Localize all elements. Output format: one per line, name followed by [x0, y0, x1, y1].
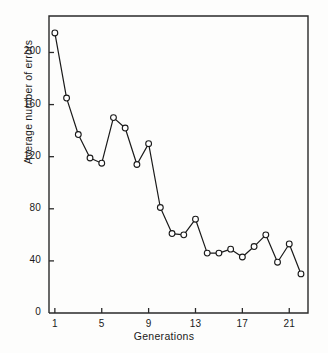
x-axis-title: Generations: [0, 330, 328, 342]
data-point-marker: [263, 232, 269, 238]
data-point-marker: [111, 115, 117, 121]
data-point-marker: [99, 160, 105, 166]
data-point-marker: [75, 132, 81, 138]
data-point-marker: [157, 205, 163, 211]
data-point-marker: [216, 250, 222, 256]
x-axis-tick-label: 13: [185, 318, 205, 329]
data-point-marker: [228, 246, 234, 252]
data-point-marker: [275, 259, 281, 265]
y-axis-tick-label: 160: [11, 98, 41, 109]
data-point-marker: [181, 232, 187, 238]
y-axis-tick-label: 120: [11, 150, 41, 161]
x-axis-tick-label: 9: [139, 318, 159, 329]
y-axis-tick-label: 200: [11, 45, 41, 56]
y-axis-tick-label: 40: [11, 254, 41, 265]
y-axis-tick-label: 80: [11, 202, 41, 213]
data-point-marker: [134, 162, 140, 168]
plot-frame: [49, 16, 308, 313]
data-point-marker: [298, 271, 304, 277]
x-axis-tick-label: 17: [232, 318, 252, 329]
x-axis-tick-label: 21: [279, 318, 299, 329]
x-axis-tick-label: 1: [45, 318, 65, 329]
data-point-marker: [122, 125, 128, 131]
data-point-marker: [193, 216, 199, 222]
x-axis-tick-label: 5: [92, 318, 112, 329]
data-point-marker: [251, 244, 257, 250]
data-point-marker: [64, 95, 70, 101]
data-point-marker: [169, 231, 175, 237]
data-point-marker: [204, 250, 210, 256]
y-axis-tick-label: 0: [11, 306, 41, 317]
figure: Average number of errors Generations 040…: [0, 0, 328, 353]
data-point-marker: [286, 241, 292, 247]
data-point-marker: [87, 155, 93, 161]
data-point-marker: [146, 141, 152, 147]
data-point-marker: [52, 30, 58, 36]
line-chart-canvas: [0, 0, 328, 353]
data-point-marker: [239, 254, 245, 260]
